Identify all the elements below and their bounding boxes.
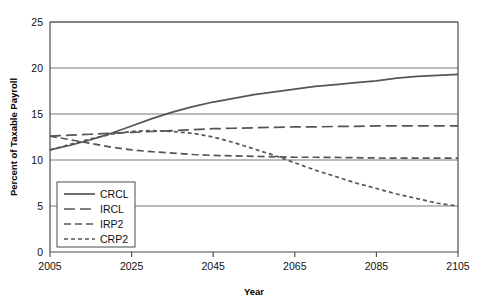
chart-container: Percent of Taxable Payroll Year 05101520… [0,0,482,301]
x-axis-title: Year [244,286,264,297]
y-tick-label: 10 [31,154,43,166]
legend: CRCLIRCLIRP2CRP2 [57,182,135,247]
x-tick-label: 2065 [283,260,307,272]
legend-label-crp2: CRP2 [100,233,128,245]
x-tick-label: 2045 [202,260,226,272]
legend-label-ircl: IRCL [100,203,124,215]
y-tick-label: 20 [31,62,43,74]
chart-background [0,0,482,301]
y-tick-label: 0 [37,246,43,258]
legend-label-irp2: IRP2 [100,218,124,230]
y-tick-label: 25 [31,16,43,28]
x-tick-label: 2105 [446,260,470,272]
x-tick-label: 2025 [120,260,144,272]
line-chart: Percent of Taxable Payroll Year 05101520… [0,0,482,301]
x-tick-label: 2005 [38,260,62,272]
y-tick-label: 15 [31,108,43,120]
y-tick-label: 5 [37,200,43,212]
legend-label-crcl: CRCL [100,188,129,200]
y-axis-title: Percent of Taxable Payroll [8,78,19,196]
x-tick-label: 2085 [365,260,389,272]
